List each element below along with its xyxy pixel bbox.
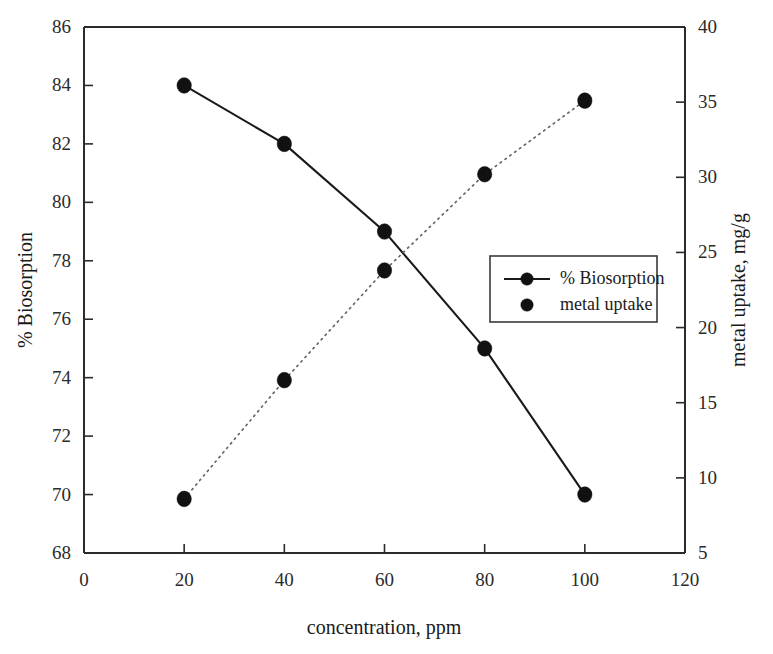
right-tick-label: 5 [698,542,708,563]
chart-figure: 68707274767880828486 510152025303540 020… [0,0,773,654]
left-tick-label: 84 [52,74,72,95]
x-tick-label: 20 [175,569,194,590]
left-tick-label: 68 [52,542,71,563]
x-axis-ticks: 020406080100120 [79,544,699,590]
data-point-0-0 [177,78,191,94]
data-point-1-0 [177,491,191,507]
legend-marker-biosorption [521,273,533,285]
data-point-0-3 [477,341,491,357]
data-point-0-2 [377,224,391,240]
right-tick-label: 15 [698,392,717,413]
left-tick-label: 76 [52,308,71,329]
left-tick-label: 82 [52,133,71,154]
legend-marker-metal-uptake [521,299,533,311]
data-point-0-4 [578,487,592,503]
right-tick-label: 10 [698,467,717,488]
legend-label-metal-uptake: metal uptake [560,294,652,314]
x-axis-title: concentration, ppm [307,616,462,639]
right-tick-label: 35 [698,91,717,112]
data-point-1-1 [277,372,291,388]
right-tick-label: 30 [698,166,717,187]
y-right-axis-title: metal uptake, mg/g [727,213,750,367]
left-tick-label: 86 [52,16,71,37]
left-axis-ticks: 68707274767880828486 [52,16,93,563]
data-point-1-4 [578,93,592,109]
right-axis-ticks: 510152025303540 [676,16,717,563]
data-point-1-2 [377,263,391,279]
left-tick-label: 78 [52,250,71,271]
left-tick-label: 72 [52,425,71,446]
right-tick-label: 20 [698,317,717,338]
x-tick-label: 80 [475,569,494,590]
x-tick-label: 40 [275,569,294,590]
x-tick-label: 120 [671,569,700,590]
left-tick-label: 70 [52,484,71,505]
x-tick-label: 0 [79,569,89,590]
x-tick-label: 100 [571,569,600,590]
left-tick-label: 80 [52,191,71,212]
legend-label-biosorption: % Biosorption [560,268,665,288]
x-tick-label: 60 [375,569,394,590]
data-point-0-1 [277,136,291,152]
right-tick-label: 25 [698,241,717,262]
biosorption-metal-uptake-chart: 68707274767880828486 510152025303540 020… [0,0,773,654]
right-tick-label: 40 [698,16,717,37]
left-tick-label: 74 [52,367,72,388]
y-left-axis-title: % Biosorption [14,232,37,348]
data-point-1-3 [477,166,491,182]
chart-legend: % Biosorption metal uptake [490,256,665,322]
